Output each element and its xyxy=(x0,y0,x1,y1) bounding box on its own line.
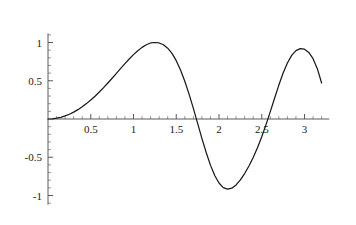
y-tick-label: -1 xyxy=(33,190,42,201)
x-tick-label: 2.5 xyxy=(255,124,269,135)
plot-graphics xyxy=(0,0,356,225)
plot-canvas: 0.511.522.53 10.5-0.5-1 xyxy=(0,0,356,225)
y-tick-label: 1 xyxy=(37,37,43,48)
y-tick-label: 0.5 xyxy=(28,75,42,86)
y-tick-label: -0.5 xyxy=(25,152,42,163)
x-tick-label: 0.5 xyxy=(84,124,98,135)
data-curve-sin-x-squared xyxy=(48,43,322,190)
x-tick-label: 1 xyxy=(131,124,137,135)
x-tick-label: 2 xyxy=(216,124,222,135)
x-tick-label: 3 xyxy=(302,124,308,135)
x-tick-label: 1.5 xyxy=(169,124,183,135)
x-axis-major-ticks xyxy=(91,114,305,119)
